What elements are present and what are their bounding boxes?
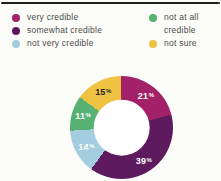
legend-label: not very credible	[27, 37, 94, 50]
slice-label: 21%	[138, 91, 154, 101]
legend-swatch-icon	[12, 14, 20, 22]
legend-label: very credible	[27, 11, 78, 24]
donut-hole	[93, 99, 150, 156]
slice-label: 14%	[78, 142, 94, 152]
legend-swatch-icon	[12, 27, 20, 35]
legend-item-not-very-credible: not very credible	[12, 37, 132, 50]
donut-chart: 21%39%14%11%15%	[70, 76, 173, 179]
top-rule	[1, 2, 220, 4]
legend-label: not sure	[164, 37, 197, 50]
legend-column-right: not at all credible not sure	[149, 11, 215, 50]
legend-swatch-icon	[149, 14, 157, 22]
legend-item-somewhat-credible: somewhat credible	[12, 24, 132, 37]
legend-item-very-credible: very credible	[12, 11, 132, 24]
slice-label: 11%	[75, 111, 91, 121]
legend-item-not-at-all-credible: not at all credible	[149, 11, 215, 37]
legend-item-not-sure: not sure	[149, 37, 215, 50]
legend-label: not at all credible	[164, 11, 215, 37]
slice-label: 39%	[136, 156, 152, 166]
legend-swatch-icon	[12, 40, 20, 48]
legend-swatch-icon	[149, 40, 157, 48]
infographic-frame: very credible somewhat credible not very…	[0, 0, 221, 181]
slice-label: 15%	[95, 87, 111, 97]
legend-column-left: very credible somewhat credible not very…	[12, 11, 132, 50]
legend-label: somewhat credible	[27, 24, 102, 37]
